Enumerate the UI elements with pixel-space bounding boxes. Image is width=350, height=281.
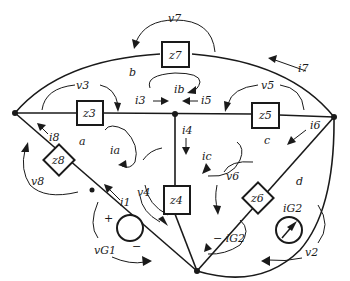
svg-text:i3: i3 bbox=[135, 94, 146, 107]
svg-text:a: a bbox=[79, 135, 86, 148]
svg-text:i5: i5 bbox=[201, 94, 212, 107]
svg-text:v4: v4 bbox=[137, 186, 150, 199]
svg-text:v8: v8 bbox=[31, 175, 44, 188]
arrowhead-ic bbox=[202, 163, 211, 174]
svg-text:i1: i1 bbox=[120, 196, 131, 209]
arrow-i8 bbox=[42, 128, 48, 134]
svg-text:c: c bbox=[264, 134, 270, 147]
node-z8-source bbox=[90, 188, 95, 193]
svg-text:ia: ia bbox=[110, 144, 120, 157]
svg-text:v3: v3 bbox=[76, 79, 89, 92]
svg-text:+: + bbox=[104, 212, 113, 225]
svg-text:z8: z8 bbox=[51, 154, 65, 167]
arrowhead-v7 bbox=[132, 39, 140, 49]
svg-text:ib: ib bbox=[174, 83, 185, 96]
wire-middle-right bbox=[279, 115, 334, 117]
svg-text:b: b bbox=[129, 66, 136, 79]
svg-text:z7: z7 bbox=[168, 49, 182, 62]
element-z8: z8 bbox=[43, 144, 74, 175]
svg-text:i6: i6 bbox=[310, 119, 321, 132]
arrowhead-v4 bbox=[158, 216, 168, 226]
node-center bbox=[172, 111, 178, 117]
arrowhead-v3 bbox=[114, 102, 121, 112]
svg-text:z6: z6 bbox=[250, 192, 264, 205]
current-source-iG2 bbox=[276, 217, 302, 243]
svg-text:vG1: vG1 bbox=[94, 244, 116, 257]
svg-text:z3: z3 bbox=[82, 107, 96, 120]
arrowhead-ib bbox=[187, 86, 196, 94]
svg-text:d: d bbox=[296, 175, 303, 188]
svg-text:iG2: iG2 bbox=[283, 202, 302, 215]
arrowhead-ia bbox=[118, 160, 127, 168]
svg-text:− iG2: − iG2 bbox=[213, 232, 245, 245]
svg-text:i7: i7 bbox=[298, 62, 309, 75]
svg-text:z5: z5 bbox=[258, 109, 272, 122]
node-right bbox=[331, 114, 337, 120]
arrow-i6 bbox=[293, 130, 306, 140]
arrowhead-neg-iG2 bbox=[204, 243, 212, 252]
svg-text:v6: v6 bbox=[226, 170, 239, 183]
arrowhead-v8 bbox=[21, 142, 29, 152]
element-z5: z5 bbox=[252, 103, 279, 128]
arrow-i1 bbox=[110, 190, 120, 200]
svg-text:v5: v5 bbox=[261, 79, 274, 92]
node-left bbox=[12, 110, 18, 116]
element-z7: z7 bbox=[162, 42, 189, 67]
circuit-diagram: z7 z3 z5 z4 z8 z6 + − v7 v3 v5 bbox=[0, 0, 350, 281]
arrowhead-v6 bbox=[213, 205, 221, 215]
svg-text:z4: z4 bbox=[169, 194, 183, 207]
element-z3: z3 bbox=[77, 101, 103, 125]
arrowhead-v5 bbox=[224, 101, 231, 112]
svg-text:ic: ic bbox=[202, 150, 212, 163]
element-z6: z6 bbox=[242, 182, 273, 213]
node-bottom bbox=[194, 268, 200, 274]
element-z4: z4 bbox=[164, 186, 190, 214]
svg-text:i8: i8 bbox=[49, 131, 60, 144]
svg-text:v7: v7 bbox=[168, 12, 181, 25]
svg-text:i4: i4 bbox=[182, 124, 193, 137]
arrowhead-v2 bbox=[261, 256, 270, 266]
svg-text:v2: v2 bbox=[305, 246, 318, 259]
arrowhead-vG1 bbox=[142, 256, 152, 266]
svg-text:−: − bbox=[132, 240, 141, 253]
